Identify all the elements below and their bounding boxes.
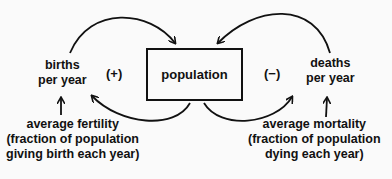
mortality-to-deaths-arrow xyxy=(326,98,327,117)
population-feedback-diagram: births per year (+) population (−) death… xyxy=(0,0,392,179)
average-mortality-label: average mortality (fraction of populatio… xyxy=(248,117,381,162)
population-stock-box: population xyxy=(146,48,243,101)
births-label: births per year xyxy=(38,58,87,88)
population-label: population xyxy=(161,67,227,82)
negative-loop-sign: (−) xyxy=(264,66,280,81)
deaths-label: deaths per year xyxy=(306,56,355,86)
positive-loop-sign: (+) xyxy=(106,66,122,81)
average-fertility-label: average fertility (fraction of populatio… xyxy=(6,117,139,162)
